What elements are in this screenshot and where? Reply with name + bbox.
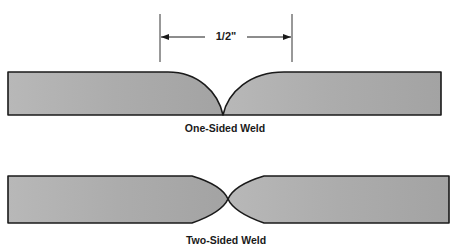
two-sided-weld-right-plate <box>228 176 449 223</box>
one-sided-weld-caption: One-Sided Weld <box>185 122 265 134</box>
one-sided-weld-right-plate <box>223 72 441 115</box>
dimension-label: 1/2" <box>212 30 241 42</box>
one-sided-weld-left-plate <box>8 72 223 115</box>
two-sided-weld-caption: Two-Sided Weld <box>186 234 266 246</box>
two-sided-weld-left-plate <box>8 176 228 223</box>
